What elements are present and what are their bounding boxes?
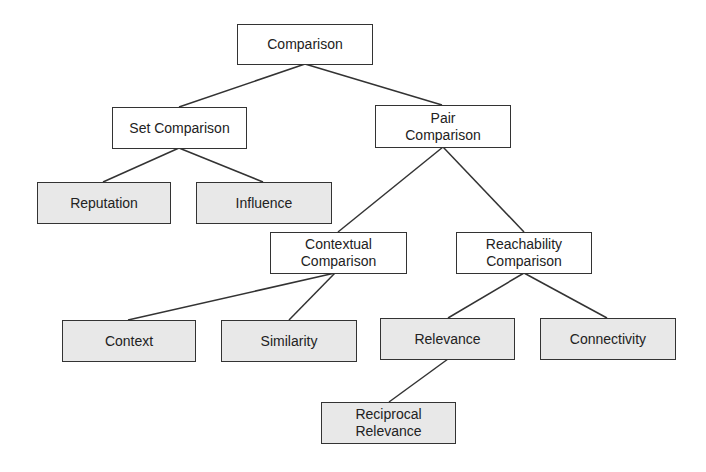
node-label: Set Comparison — [129, 120, 229, 137]
node-connectivity: Connectivity — [540, 318, 676, 360]
edge-comparison-set-comparison — [179, 64, 305, 107]
node-label: Connectivity — [570, 331, 646, 348]
node-influence: Influence — [196, 182, 332, 224]
node-label: Comparison — [267, 36, 342, 53]
node-label: Context — [105, 333, 153, 350]
taxonomy-diagram: Comparison Set Comparison Pair Compariso… — [0, 0, 706, 472]
node-label-line-1: Contextual — [305, 236, 372, 253]
node-pair-comparison: Pair Comparison — [375, 105, 511, 148]
node-reputation: Reputation — [37, 182, 171, 224]
node-label: Influence — [236, 195, 293, 212]
edge-comparison-pair-comparison — [305, 64, 442, 105]
node-label-line-2: Comparison — [486, 253, 561, 270]
node-label-line-1: Reciprocal — [355, 406, 421, 423]
edge-pair-comparison-reachability-comparison — [443, 147, 524, 232]
node-label-line-2: Relevance — [355, 423, 421, 440]
edge-contextual-comparison-similarity — [289, 273, 335, 320]
edge-reachability-comparison-connectivity — [524, 273, 607, 318]
node-set-comparison: Set Comparison — [112, 107, 247, 149]
edge-set-comparison-reputation — [103, 148, 179, 182]
node-label-line-1: Reachability — [486, 236, 562, 253]
node-label: Similarity — [261, 333, 318, 350]
node-comparison: Comparison — [237, 24, 373, 65]
node-label-line-1: Pair — [431, 110, 456, 127]
node-contextual-comparison: Contextual Comparison — [270, 232, 407, 274]
node-reciprocal-relevance: Reciprocal Relevance — [321, 402, 456, 444]
node-label-line-2: Comparison — [301, 253, 376, 270]
node-context: Context — [62, 320, 196, 362]
node-label: Relevance — [414, 331, 480, 348]
edge-reachability-comparison-relevance — [448, 273, 524, 318]
node-label: Reputation — [70, 195, 138, 212]
node-label-line-2: Comparison — [405, 127, 480, 144]
edge-pair-comparison-contextual-comparison — [338, 147, 443, 232]
node-relevance: Relevance — [380, 318, 515, 360]
edge-relevance-reciprocal-relevance — [389, 359, 448, 402]
node-reachability-comparison: Reachability Comparison — [456, 232, 592, 274]
edge-contextual-comparison-context — [128, 273, 335, 320]
node-similarity: Similarity — [221, 320, 357, 362]
edge-set-comparison-influence — [179, 148, 263, 182]
